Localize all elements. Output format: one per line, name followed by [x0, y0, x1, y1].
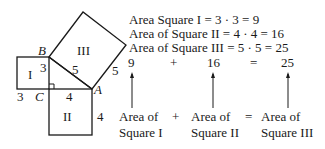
arrow-up-icon-1 [130, 72, 134, 108]
square-ii-right-label: 4 [97, 109, 104, 124]
vertex-b-label: B [38, 43, 46, 58]
caption-square-iii-line1: Area of [261, 109, 301, 124]
sum-term-9: 9 [128, 55, 135, 70]
pythagorean-diagram: B C A I II III 3 3 4 4 5 5 Area Square I… [0, 0, 325, 149]
side-bc-label: 3 [40, 60, 47, 75]
sum-term-25: 25 [281, 55, 294, 70]
vertex-c-label: C [35, 89, 44, 104]
caption-square-ii-line2: Square II [191, 125, 239, 140]
sum-plus: + [170, 55, 177, 70]
caption-square-ii-line1: Area of [191, 109, 231, 124]
caption-square-i-line2: Square I [119, 125, 163, 140]
square-i-bottom-label: 3 [17, 89, 24, 104]
arrow-up-icon-3 [286, 72, 290, 108]
equation-square-ii: Area of Square II = 4 · 4 = 16 [129, 26, 285, 41]
caption-square-iii-line2: Square III [261, 125, 313, 140]
square-iii-label: III [77, 43, 90, 58]
side-ab-label: 5 [72, 62, 79, 77]
arrow-up-icon-2 [211, 72, 215, 108]
side-ca-label: 4 [66, 89, 73, 104]
hypotenuse-ab [49, 57, 92, 89]
caption-equals: = [245, 109, 252, 124]
vertex-a-label: A [93, 82, 102, 97]
caption-square-i-line1: Area of [119, 109, 159, 124]
right-angle-marker [49, 84, 54, 89]
sum-equals: = [250, 55, 257, 70]
equation-square-iii: Area of Square III = 5 · 5 = 25 [129, 40, 288, 55]
equation-square-i: Area Square I = 3 · 3 = 9 [129, 12, 259, 27]
square-ii-label: II [63, 109, 72, 124]
square-iii-side-label: 5 [112, 63, 119, 78]
sum-term-16: 16 [207, 55, 221, 70]
caption-plus: + [172, 109, 179, 124]
square-i-label: I [28, 67, 32, 82]
